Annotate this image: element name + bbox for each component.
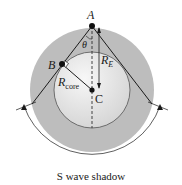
point-c-marker xyxy=(89,87,94,92)
shadow-arc-arrowhead-left xyxy=(21,104,27,110)
core-radius-subscript: core xyxy=(65,82,79,91)
shadow-arc-arrowhead-right xyxy=(157,104,163,110)
point-b-label: B xyxy=(48,58,56,72)
point-b-marker xyxy=(59,61,65,67)
point-c-label: C xyxy=(95,92,103,106)
point-a-marker xyxy=(89,23,95,29)
point-a-label: A xyxy=(86,8,95,22)
caption: S wave shadow xyxy=(57,170,125,182)
s-wave-shadow-diagram: A B C θ RE Rcore S wave shadow xyxy=(0,0,182,185)
earth-radius-subscript: E xyxy=(107,60,113,69)
theta-label: θ xyxy=(82,39,87,50)
